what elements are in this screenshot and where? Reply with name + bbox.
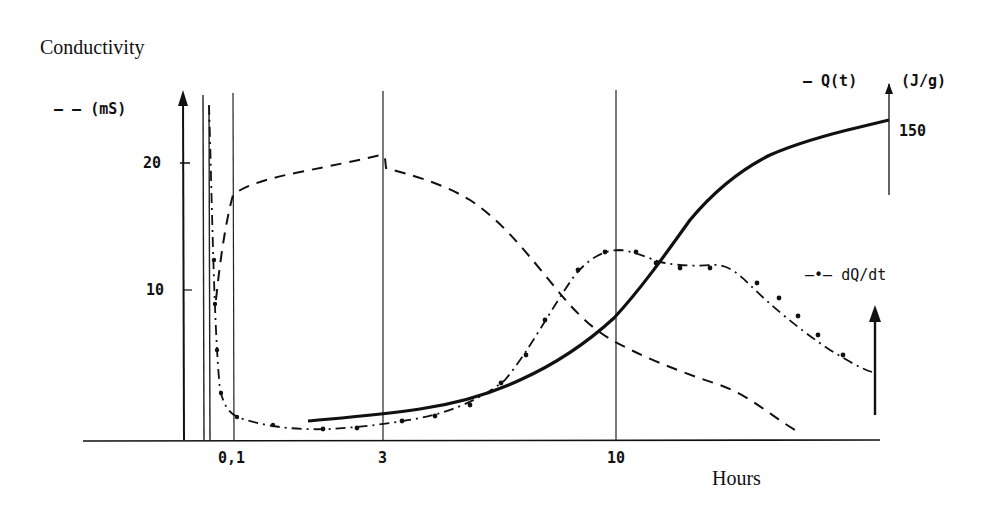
dqdt-markers — [212, 250, 846, 432]
left-y-axis-line — [183, 95, 184, 440]
conductivity-curve — [216, 155, 795, 430]
vertical-reference-line-a — [203, 95, 204, 440]
gridline-0-1-hours — [233, 93, 234, 440]
dqdt-axis-arrow-icon — [869, 305, 881, 322]
q-curve — [308, 120, 889, 421]
x-axis-line — [83, 440, 880, 441]
right-axis-arrow-icon — [885, 83, 893, 94]
left-axis-arrow-icon — [178, 90, 188, 106]
chart-plot-area — [0, 0, 998, 510]
